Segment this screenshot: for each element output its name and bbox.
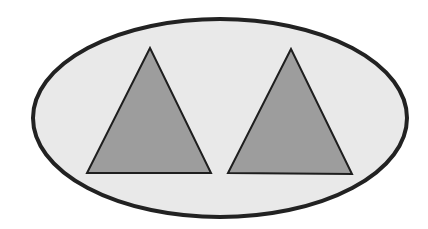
diagram-canvas bbox=[0, 0, 428, 229]
outer-ellipse bbox=[33, 19, 407, 217]
